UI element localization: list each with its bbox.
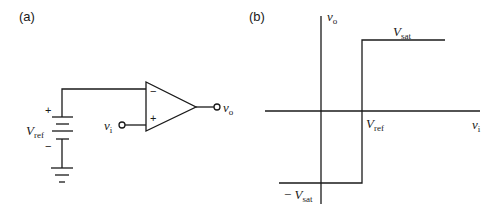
- circuit-wires: [62, 89, 214, 168]
- vref-source-label: Vref: [26, 124, 44, 140]
- vref-threshold-label: Vref: [366, 117, 384, 133]
- neg-vsat-label: − Vsat: [284, 188, 313, 204]
- input-terminal: [119, 122, 125, 128]
- output-terminal: [214, 104, 220, 110]
- source-plus-sign: +: [45, 105, 51, 116]
- x-axis-label: vi: [472, 118, 480, 134]
- source-minus-sign: −: [45, 141, 51, 152]
- opamp-inverting-sign: −: [150, 86, 156, 97]
- panel-label-b: (b): [249, 10, 265, 23]
- vsat-label: Vsat: [393, 25, 411, 41]
- y-axis-label: vo: [327, 10, 337, 26]
- vi-input-label: vi: [104, 119, 112, 135]
- panel-label-a: (a): [19, 10, 35, 23]
- vo-output-label: vo: [223, 101, 233, 117]
- opamp-noninverting-sign: +: [150, 113, 156, 124]
- diagram-canvas: [0, 0, 500, 214]
- battery-symbol: [52, 117, 73, 139]
- ground-symbol: [51, 168, 73, 182]
